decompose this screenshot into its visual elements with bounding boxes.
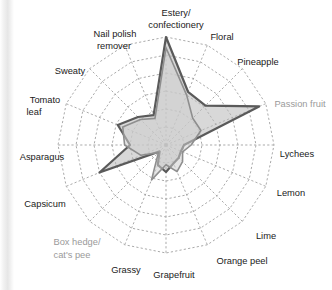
axis-label-15: Tomato: [30, 95, 61, 105]
axis-label-10: Grassy: [111, 265, 141, 275]
axis-label-11: Box hedge/: [53, 237, 100, 247]
radar-series-layer: [99, 37, 259, 180]
axis-label-6: Lemon: [277, 188, 305, 198]
axis-label-7: Lime: [256, 231, 276, 241]
axis-label-1: confectionery: [148, 20, 204, 30]
axis-label-9: Grapefruit: [153, 270, 195, 280]
axis-label-17: Sweaty: [55, 66, 86, 76]
axis-label-19: remover: [97, 41, 131, 51]
axis-label-8: Orange peel: [216, 256, 267, 266]
axis-label-14: Asparagus: [20, 152, 65, 162]
axis-label-16: leaf: [27, 107, 42, 117]
radar-chart: Estery/confectioneryFloralPineapplePassi…: [0, 0, 332, 290]
axis-label-2: Floral: [210, 32, 233, 42]
radar-chart-svg: Estery/confectioneryFloralPineapplePassi…: [0, 0, 332, 290]
axis-label-0: Estery/: [162, 8, 191, 18]
axis-label-13: Capsicum: [24, 199, 66, 209]
axis-label-3: Pineapple: [237, 57, 278, 67]
axis-label-4: Passion fruit: [274, 99, 326, 109]
axis-label-12: cat's pee: [54, 250, 91, 260]
axis-label-5: Lychees: [280, 149, 315, 159]
axis-label-18: Nail polish: [94, 29, 137, 39]
